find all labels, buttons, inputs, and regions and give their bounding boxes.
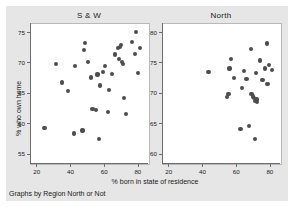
panel-title-right: North: [162, 11, 280, 20]
y-axis-title: % who own home: [15, 81, 22, 136]
y-tick-label: 55: [8, 150, 25, 157]
data-point: [229, 57, 233, 61]
data-point: [247, 124, 251, 128]
y-tick-label: 70: [140, 89, 157, 96]
data-point: [253, 137, 257, 141]
x-tick: [270, 163, 271, 167]
data-point: [232, 76, 236, 80]
y-tick: [159, 154, 163, 155]
y-tick-label: 75: [140, 59, 157, 66]
x-tick: [236, 163, 237, 167]
data-point: [249, 47, 253, 51]
x-tick-label: 80: [260, 168, 280, 175]
data-point: [255, 100, 259, 104]
data-point: [113, 52, 117, 56]
data-point: [260, 78, 264, 82]
x-axis-line: [162, 163, 280, 164]
data-point: [244, 77, 248, 81]
data-point: [134, 30, 138, 34]
x-tick: [70, 163, 71, 167]
y-tick: [159, 32, 163, 33]
data-point: [130, 40, 134, 44]
y-tick: [159, 62, 163, 63]
y-tick-label: 70: [8, 59, 25, 66]
x-axis-title: % born in state of residence: [30, 178, 280, 185]
data-point: [242, 69, 246, 73]
x-tick-label: 60: [94, 168, 114, 175]
data-point: [254, 71, 258, 75]
data-point: [60, 80, 64, 84]
data-point: [66, 89, 70, 93]
graph-region: S & W North 556065707520406080 606570758…: [6, 6, 288, 201]
data-point: [138, 46, 142, 50]
data-point: [107, 88, 111, 92]
data-point: [101, 70, 105, 74]
y-tick-label: 80: [140, 29, 157, 36]
y-tick-label: 65: [140, 120, 157, 127]
panel-title-left: S & W: [30, 11, 148, 20]
y-tick: [27, 62, 31, 63]
x-tick-label: 40: [192, 168, 212, 175]
data-point: [42, 126, 46, 130]
y-tick: [27, 32, 31, 33]
x-tick: [168, 163, 169, 167]
figure-canvas: S & W North 556065707520406080 606570758…: [0, 0, 294, 207]
data-point: [238, 127, 242, 131]
y-tick-label: 75: [8, 29, 25, 36]
figure-note: Graphs by Region North or Not: [9, 190, 106, 197]
data-point: [265, 82, 269, 86]
data-point: [83, 41, 87, 45]
data-point: [240, 86, 244, 90]
data-point: [97, 137, 101, 141]
data-point: [133, 52, 137, 56]
x-tick-label: 80: [128, 168, 148, 175]
data-point: [82, 48, 86, 52]
y-tick: [27, 154, 31, 155]
data-point: [270, 68, 274, 72]
y-tick: [159, 93, 163, 94]
data-point: [124, 112, 128, 116]
x-tick: [36, 163, 37, 167]
data-point: [72, 131, 76, 135]
data-point: [206, 70, 210, 74]
x-tick: [202, 163, 203, 167]
data-point: [94, 108, 98, 112]
data-point: [103, 64, 107, 68]
data-point: [119, 43, 123, 47]
data-point: [110, 72, 114, 76]
data-point: [265, 41, 269, 45]
data-point: [86, 60, 90, 64]
data-point: [89, 75, 93, 79]
data-point: [73, 64, 77, 68]
data-point: [80, 128, 84, 132]
data-point: [267, 63, 271, 67]
data-point: [122, 96, 126, 100]
data-point: [121, 62, 125, 66]
data-point: [136, 71, 140, 75]
y-tick: [27, 123, 31, 124]
data-point: [227, 66, 231, 70]
data-point: [226, 92, 230, 96]
y-tick: [27, 93, 31, 94]
x-tick: [104, 163, 105, 167]
data-point: [263, 66, 267, 70]
x-tick-label: 20: [159, 168, 179, 175]
data-point: [258, 58, 262, 62]
data-point: [98, 83, 102, 87]
data-point: [106, 110, 110, 114]
data-point: [54, 62, 58, 66]
x-axis-line: [30, 163, 148, 164]
plot-area-left: [30, 23, 150, 165]
x-tick: [138, 163, 139, 167]
x-tick-label: 40: [60, 168, 80, 175]
plot-area-right: [162, 23, 282, 165]
x-tick-label: 20: [27, 168, 47, 175]
y-tick: [159, 123, 163, 124]
x-tick-label: 60: [226, 168, 246, 175]
data-point: [95, 72, 99, 76]
y-tick-label: 60: [140, 150, 157, 157]
